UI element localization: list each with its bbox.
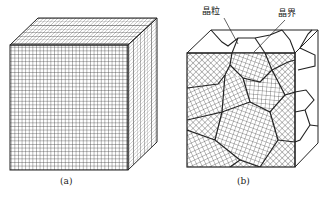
grain-label: 晶粒: [202, 4, 220, 17]
grain-boundary-label: 晶界: [278, 6, 296, 19]
single-crystal-cube: [10, 18, 157, 170]
caption-b: (b): [237, 176, 250, 186]
polycrystal-cube: [187, 18, 318, 167]
caption-a: (a): [60, 176, 72, 186]
figure-canvas: [0, 0, 326, 199]
